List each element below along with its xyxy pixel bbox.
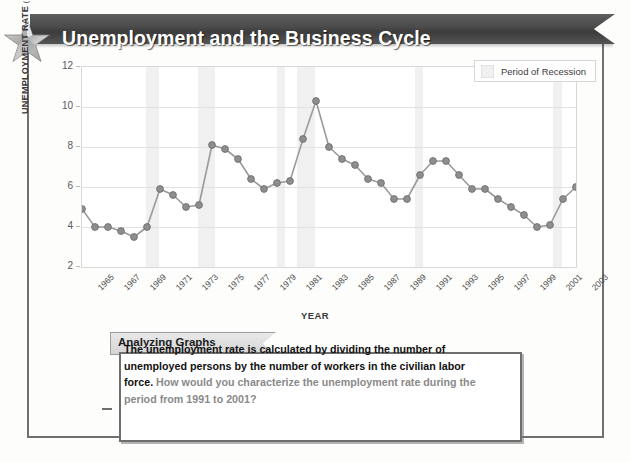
data-point-marker [534, 224, 541, 231]
data-point-marker [417, 172, 424, 179]
data-point-marker [482, 186, 489, 193]
data-point-marker [183, 204, 190, 211]
legend-swatch-recession [481, 65, 494, 78]
figure-page: Unemployment and the Business Cycle UNEM… [0, 0, 631, 462]
x-tick-label: 1967 [122, 272, 142, 292]
data-point-marker [196, 202, 203, 209]
data-point-marker [105, 224, 112, 231]
x-tick-label: 1999 [538, 272, 558, 292]
data-point-marker [170, 192, 177, 199]
y-tick-label: 8 [47, 140, 73, 151]
x-tick-label: 1965 [96, 272, 116, 292]
data-point-marker [118, 228, 125, 235]
y-tick-label: 4 [47, 220, 73, 231]
data-point-marker [443, 158, 450, 165]
x-tick-label: 1995 [486, 272, 506, 292]
data-point-marker [287, 178, 294, 185]
caption-question: How would you characterize the unemploym… [124, 376, 476, 405]
y-tick-mark [76, 106, 80, 107]
data-point-marker [508, 204, 515, 211]
x-tick-label: 1981 [304, 272, 324, 292]
data-point-marker [235, 156, 242, 163]
x-tick-label: 1969 [148, 272, 168, 292]
y-tick-mark [76, 226, 80, 227]
caption-text: The unemployment rate is calculated by d… [124, 341, 496, 407]
data-point-marker [352, 162, 359, 169]
x-tick-label: 1997 [512, 272, 532, 292]
data-point-marker [157, 186, 164, 193]
y-axis-title: UNEMPLOYMENT RATE (percentage) [20, 0, 30, 114]
x-tick-label: 1993 [460, 272, 480, 292]
analyzing-graphs-caption: Analyzing Graphs The unemployment rate i… [110, 332, 520, 442]
y-tick-label: 6 [47, 180, 73, 191]
data-point-marker [391, 196, 398, 203]
data-point-marker [495, 196, 502, 203]
data-point-marker [378, 180, 385, 187]
x-tick-label: 2003 [590, 272, 610, 292]
caption-left-notch [102, 408, 112, 410]
y-tick-mark [76, 66, 80, 67]
x-tick-label: 1977 [252, 272, 272, 292]
y-tick-mark [76, 186, 80, 187]
legend-label-recession: Period of Recession [501, 66, 586, 77]
x-tick-label: 1979 [278, 272, 298, 292]
x-tick-label: 1987 [382, 272, 402, 292]
title-banner: Unemployment and the Business Cycle [0, 12, 631, 50]
data-point-marker [521, 212, 528, 219]
y-axis-title-units: (percentage) [21, 0, 30, 3]
plot-area [81, 66, 577, 268]
x-tick-label: 2001 [564, 272, 584, 292]
data-point-marker [365, 176, 372, 183]
data-point-marker [560, 196, 567, 203]
x-tick-label: 1971 [174, 272, 194, 292]
data-point-marker [274, 180, 281, 187]
data-point-marker [131, 234, 138, 241]
data-point-marker [547, 222, 554, 229]
series-line [82, 101, 576, 237]
x-tick-label: 1983 [330, 272, 350, 292]
x-tick-label: 1985 [356, 272, 376, 292]
data-point-marker [430, 158, 437, 165]
page-title: Unemployment and the Business Cycle [62, 27, 431, 50]
data-point-marker [469, 186, 476, 193]
y-tick-label: 2 [47, 260, 73, 271]
x-tick-label: 1975 [226, 272, 246, 292]
y-tick-mark [76, 146, 80, 147]
x-axis-title: YEAR [28, 310, 602, 321]
chart-container: UNEMPLOYMENT RATE (percentage) 24681012 … [28, 52, 602, 322]
y-tick-mark [76, 266, 80, 267]
y-tick-label: 12 [47, 60, 73, 71]
data-point-marker [326, 144, 333, 151]
data-point-marker [82, 206, 85, 213]
data-point-marker [261, 186, 268, 193]
data-point-marker [222, 146, 229, 153]
data-point-marker [456, 172, 463, 179]
chart-legend: Period of Recession [474, 60, 596, 82]
x-tick-label: 1973 [200, 272, 220, 292]
x-tick-label: 1991 [434, 272, 454, 292]
data-point-marker [248, 176, 255, 183]
data-point-marker [573, 184, 576, 191]
data-point-marker [404, 196, 411, 203]
y-tick-label: 10 [47, 100, 73, 111]
unemployment-line-series [82, 67, 576, 267]
data-point-marker [92, 224, 99, 231]
data-point-marker [339, 156, 346, 163]
data-point-marker [313, 98, 320, 105]
y-axis-title-main: UNEMPLOYMENT RATE [20, 6, 30, 114]
data-point-marker [144, 224, 151, 231]
frame-right-rule [602, 40, 604, 438]
data-point-marker [209, 142, 216, 149]
data-point-marker [300, 136, 307, 143]
x-tick-label: 1989 [408, 272, 428, 292]
